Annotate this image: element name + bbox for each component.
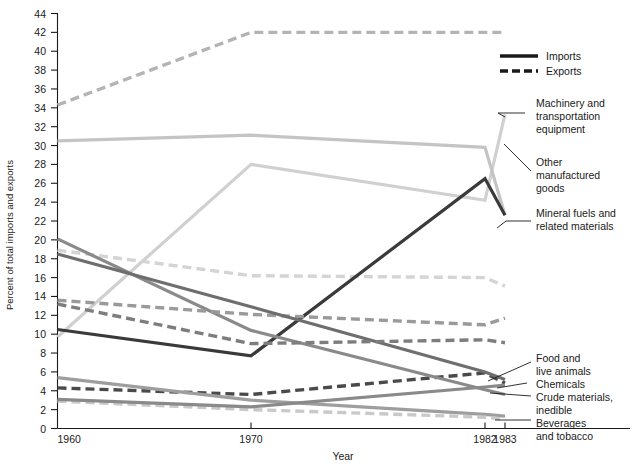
x-tick-label-1970: 1970: [239, 433, 263, 445]
x-tick-label-1983: 1983: [493, 433, 517, 445]
y-tick-label-6: 6: [40, 366, 46, 378]
y-axis-tick-labels: 0246810121416182022242628303234363840424…: [34, 8, 46, 435]
ann-other-l2: goods: [536, 182, 565, 194]
series-1-machinery-and-transportation-equipment-imports: [58, 114, 506, 337]
legend-label-exports: Exports: [546, 65, 582, 77]
y-tick-label-0: 0: [40, 423, 46, 435]
x-axis-tick-labels: 1960197019821983: [58, 433, 517, 445]
series-12-chemicals-imports: [58, 385, 506, 407]
y-tick-label-42: 42: [34, 26, 46, 38]
y-tick-label-20: 20: [34, 234, 46, 246]
ann-food-l0: Food and: [536, 352, 581, 364]
y-tick-label-18: 18: [34, 253, 46, 265]
leader-crude: [490, 393, 531, 396]
y-tick-label-32: 32: [34, 121, 46, 133]
legend-label-imports: Imports: [546, 50, 581, 62]
ann-beverages-l1: and tobacco: [536, 430, 593, 442]
y-tick-label-30: 30: [34, 140, 46, 152]
ann-machinery-l2: equipment: [536, 123, 585, 135]
ann-beverages-l0: Beverages: [536, 417, 586, 429]
y-tick-label-12: 12: [34, 309, 46, 321]
series-3-other-manufactured-goods-exports: [58, 250, 506, 286]
y-tick-label-8: 8: [40, 347, 46, 359]
ann-mineral-l1: related materials: [536, 220, 614, 232]
series-lines: [58, 32, 506, 419]
chart-legend: Imports Exports: [500, 50, 582, 77]
series-7-crude-materials-inedible-exports: [58, 300, 506, 325]
y-tick-label-40: 40: [34, 45, 46, 57]
ann-machinery-l0: Machinery and: [536, 97, 605, 109]
leader-food: [488, 362, 531, 381]
y-tick-label-24: 24: [34, 196, 46, 208]
y-tick-label-34: 34: [34, 102, 46, 114]
ann-crude-l0: Crude materials,: [536, 391, 613, 403]
y-axis-title: Percent of total imports and exports: [4, 160, 15, 310]
y-tick-label-38: 38: [34, 64, 46, 76]
leader-mineral-hook: [497, 221, 506, 228]
series-2-other-manufactured-goods-imports: [58, 135, 506, 215]
leader-other-manufactured: [504, 144, 531, 171]
y-tick-label-22: 22: [34, 215, 46, 227]
ann-chemicals-l0: Chemicals: [536, 378, 585, 390]
y-tick-label-10: 10: [34, 328, 46, 340]
y-tick-label-14: 14: [34, 290, 46, 302]
ann-other-l0: Other: [536, 156, 563, 168]
ann-crude-l1: inedible: [536, 404, 572, 416]
series-0-machinery-and-transportation-equipment-exports: [58, 32, 506, 105]
y-tick-label-16: 16: [34, 272, 46, 284]
annotation-labels: Machinery and transportation equipment O…: [536, 97, 616, 442]
x-axis-ticks: [251, 423, 505, 429]
y-tick-label-2: 2: [40, 404, 46, 416]
ann-food-l1: live animals: [536, 365, 591, 377]
x-axis-title: Year: [332, 450, 354, 462]
ann-mineral-l0: Mineral fuels and: [536, 207, 616, 219]
x-tick-label-1960: 1960: [58, 433, 82, 445]
ann-other-l1: manufactured: [536, 169, 600, 181]
y-tick-label-28: 28: [34, 158, 46, 170]
y-tick-label-26: 26: [34, 177, 46, 189]
y-axis-ticks: [51, 14, 58, 429]
imports-exports-line-chart: Percent of total imports and exports 024…: [0, 0, 633, 469]
y-tick-label-36: 36: [34, 83, 46, 95]
ann-machinery-l1: transportation: [536, 110, 600, 122]
series-8-food-and-live-animals-imports: [58, 254, 506, 380]
y-tick-label-4: 4: [40, 385, 46, 397]
chart-canvas: Percent of total imports and exports 024…: [0, 0, 633, 469]
series-4-mineral-fuels-and-related-materials-imports: [58, 179, 506, 356]
y-tick-label-44: 44: [34, 8, 46, 20]
series-10-beverages-and-tobacco-imports: [58, 378, 506, 417]
